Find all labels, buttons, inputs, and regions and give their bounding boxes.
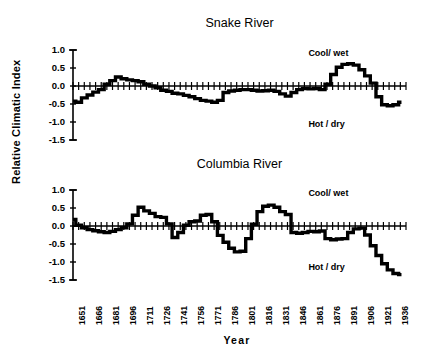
x-tick-label: 1696 [128, 306, 138, 325]
annotation-hot-dry: Hot / dry [308, 119, 345, 129]
annotation-cool-wet: Cool/ wet [308, 48, 348, 58]
x-tick-label: 1681 [111, 306, 121, 325]
y-tick-label: 0.5 [35, 202, 65, 213]
x-tick-label: 1726 [162, 306, 172, 325]
data-series-columbia-river [73, 205, 401, 274]
x-tick-label: 1936 [400, 306, 410, 325]
panel-title-columbia-river: Columbia River [140, 157, 340, 171]
y-tick-label: -0.5 [35, 98, 65, 109]
y-tick-label: -1.5 [35, 274, 65, 285]
y-tick-label: 0.0 [35, 220, 65, 231]
x-tick-label: 1801 [247, 306, 257, 325]
x-tick-label: 1846 [298, 306, 308, 325]
y-tick-label: 0.5 [35, 62, 65, 73]
y-tick-label: -1.0 [35, 116, 65, 127]
x-tick-label: 1786 [230, 306, 240, 325]
y-tick-label: 1.0 [35, 184, 65, 195]
x-tick-label: 1831 [281, 306, 291, 325]
x-tick-label: 1711 [145, 307, 155, 325]
x-tick-label: 1651 [77, 306, 87, 325]
x-tick-label: 1891 [349, 306, 359, 325]
x-tick-label: 1771 [213, 306, 223, 325]
x-axis-title: Year [224, 334, 251, 346]
x-tick-label: 1861 [315, 306, 325, 325]
annotation-cool-wet: Cool/ wet [308, 188, 348, 198]
x-tick-label: 1816 [264, 306, 274, 325]
y-tick-label: 1.0 [35, 44, 65, 55]
x-tick-label: 1906 [366, 306, 376, 325]
panel-title-snake-river: Snake River [140, 16, 340, 30]
x-tick-label: 1756 [196, 306, 206, 325]
y-tick-label: 0.0 [35, 80, 65, 91]
y-tick-label: -0.5 [35, 238, 65, 249]
annotation-hot-dry: Hot / dry [308, 262, 345, 272]
x-tick-label: 1666 [94, 306, 104, 325]
x-tick-label: 1876 [332, 306, 342, 325]
y-tick-label: -1.5 [35, 134, 65, 145]
y-tick-label: -1.0 [35, 256, 65, 267]
x-tick-label: 1921 [383, 306, 393, 325]
x-tick-label: 1741 [179, 306, 189, 325]
